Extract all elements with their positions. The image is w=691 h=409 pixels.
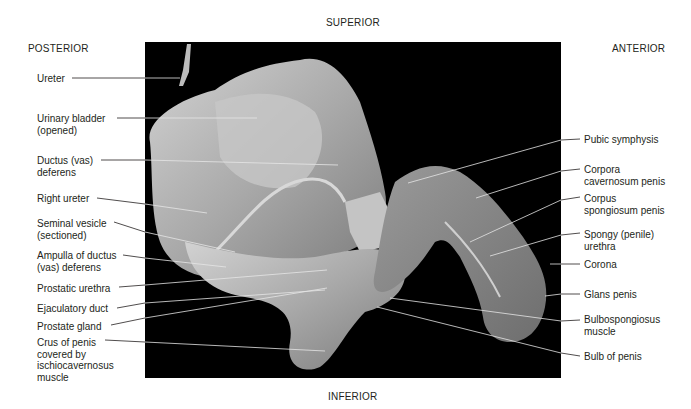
label-ejaculatory-duct: Ejaculatory duct	[37, 303, 108, 315]
label-right-ureter: Right ureter	[37, 193, 89, 205]
label-spongy-urethra: Spongy (penile) urethra	[584, 229, 654, 252]
label-urinary-bladder: Urinary bladder (opened)	[37, 113, 105, 136]
label-seminal-vesicle: Seminal vesicle (sectioned)	[37, 218, 106, 241]
label-pubic-symphysis: Pubic symphysis	[584, 134, 658, 146]
label-corpus-spongiosum: Corpus spongiosum penis	[584, 193, 665, 216]
label-ductus-deferens: Ductus (vas) deferens	[37, 155, 93, 178]
label-corpora-cavernosum: Corpora cavernosum penis	[584, 164, 665, 187]
label-corona: Corona	[584, 259, 617, 271]
label-ampulla-ductus-deferens: Ampulla of ductus (vas) deferens	[37, 250, 117, 273]
label-glans-penis: Glans penis	[584, 289, 637, 301]
label-crus-of-penis: Crus of penis covered by ischiocavernosu…	[37, 337, 114, 383]
label-bulb-of-penis: Bulb of penis	[584, 351, 642, 363]
label-ureter: Ureter	[37, 73, 65, 85]
label-prostate-gland: Prostate gland	[37, 321, 102, 333]
label-bulbospongiosus-muscle: Bulbospongiosus muscle	[584, 314, 660, 337]
label-prostatic-urethra: Prostatic urethra	[37, 283, 110, 295]
